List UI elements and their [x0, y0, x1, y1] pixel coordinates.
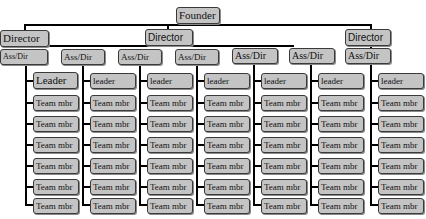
team-member-box: Team mbr — [147, 116, 193, 132]
spine-col-4 — [196, 63, 198, 205]
tick — [196, 80, 204, 82]
spine-col-7 — [370, 63, 372, 205]
assdir-box-4: Ass/Dir — [175, 49, 219, 65]
team-member-box: Team mbr — [378, 158, 424, 174]
tick — [82, 80, 90, 82]
tick — [196, 144, 204, 146]
tick — [196, 186, 204, 188]
leader-box-3: leader — [147, 73, 193, 89]
tick — [310, 102, 318, 104]
tick — [253, 80, 261, 82]
tick — [253, 102, 261, 104]
team-member-box: Team mbr — [378, 179, 424, 195]
team-member-box: Team mbr — [261, 179, 307, 195]
tick — [370, 80, 378, 82]
team-member-box: Team mbr — [378, 198, 424, 214]
tick — [253, 144, 261, 146]
assdir-box-1: Ass/Dir — [0, 49, 48, 65]
tick — [25, 80, 33, 82]
connector-top-bar — [24, 24, 372, 26]
team-member-box: Team mbr — [261, 158, 307, 174]
team-member-box: Team mbr — [318, 116, 364, 132]
tick — [82, 144, 90, 146]
assdir-box-3: Ass/Dir — [118, 49, 162, 65]
tick — [82, 204, 90, 206]
team-member-box: Team mbr — [204, 198, 250, 214]
leader-box-7: leader — [378, 73, 424, 89]
assdir-box-2: Ass/Dir — [61, 49, 105, 65]
tick — [139, 186, 147, 188]
team-member-box: Team mbr — [33, 116, 79, 132]
tick — [139, 123, 147, 125]
tick — [253, 165, 261, 167]
assdir-box-7: Ass/Dir — [345, 48, 391, 64]
tick — [310, 186, 318, 188]
team-member-box: Team mbr — [33, 95, 79, 111]
team-member-box: Team mbr — [378, 116, 424, 132]
tick — [82, 165, 90, 167]
director-box-right: Director — [345, 29, 391, 46]
team-member-box: Team mbr — [90, 198, 136, 214]
founder-box: Founder — [176, 7, 220, 24]
leader-box-4: leader — [204, 73, 250, 89]
team-member-box: Team mbr — [318, 179, 364, 195]
team-member-box: Team mbr — [147, 179, 193, 195]
assdir-box-5: Ass/Dir — [232, 48, 278, 64]
spine-col-3 — [139, 63, 141, 205]
assdir-box-6: Ass/Dir — [289, 48, 335, 64]
tick — [370, 204, 378, 206]
tick — [25, 204, 33, 206]
team-member-box: Team mbr — [147, 158, 193, 174]
tick — [310, 144, 318, 146]
tick — [370, 144, 378, 146]
team-member-box: Team mbr — [318, 137, 364, 153]
leader-box-6: leader — [318, 73, 364, 89]
team-member-box: Team mbr — [378, 137, 424, 153]
team-member-box: Team mbr — [90, 95, 136, 111]
tick — [196, 123, 204, 125]
team-member-box: Team mbr — [318, 95, 364, 111]
team-member-box: Team mbr — [318, 198, 364, 214]
team-member-box: Team mbr — [204, 158, 250, 174]
team-member-box: Team mbr — [204, 95, 250, 111]
team-member-box: Team mbr — [204, 179, 250, 195]
tick — [310, 204, 318, 206]
tick — [196, 102, 204, 104]
tick — [25, 102, 33, 104]
tick — [25, 186, 33, 188]
team-member-box: Team mbr — [33, 179, 79, 195]
tick — [25, 123, 33, 125]
tick — [370, 123, 378, 125]
team-member-box: Team mbr — [261, 116, 307, 132]
team-member-box: Team mbr — [90, 116, 136, 132]
tick — [139, 204, 147, 206]
team-member-box: Team mbr — [204, 116, 250, 132]
tick — [82, 123, 90, 125]
team-member-box: Team mbr — [147, 95, 193, 111]
tick — [253, 123, 261, 125]
org-chart: Founder Director Director Director Ass/D… — [0, 0, 426, 219]
team-member-box: Team mbr — [261, 137, 307, 153]
team-member-box: Team mbr — [147, 198, 193, 214]
tick — [253, 204, 261, 206]
tick — [25, 144, 33, 146]
team-member-box: Team mbr — [261, 198, 307, 214]
team-member-box: Team mbr — [147, 137, 193, 153]
team-member-box: Team mbr — [90, 158, 136, 174]
tick — [82, 102, 90, 104]
spine-col-2 — [82, 63, 84, 205]
team-member-box: Team mbr — [204, 137, 250, 153]
team-member-box: Team mbr — [90, 137, 136, 153]
tick — [310, 123, 318, 125]
team-member-box: Team mbr — [261, 95, 307, 111]
tick — [310, 165, 318, 167]
spine-col-6 — [310, 63, 312, 205]
tick — [253, 186, 261, 188]
director-box-left: Director — [0, 30, 49, 47]
tick — [25, 165, 33, 167]
team-member-box: Team mbr — [90, 179, 136, 195]
tick — [139, 102, 147, 104]
tick — [370, 186, 378, 188]
team-member-box: Team mbr — [33, 137, 79, 153]
tick — [139, 165, 147, 167]
